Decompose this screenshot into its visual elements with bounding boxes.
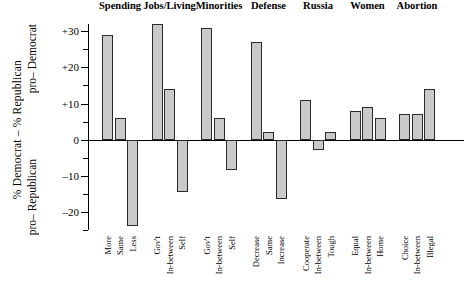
y-tick-label: +30 <box>62 25 79 37</box>
category-label-wrap: Self <box>177 236 187 288</box>
category-label-wrap: Increase <box>276 236 286 288</box>
bar <box>350 111 361 140</box>
bar <box>325 132 336 139</box>
group-header-minorities: Minorities <box>196 0 243 11</box>
category-label-wrap: Illegal <box>425 236 435 288</box>
y-tick-major <box>81 31 88 32</box>
y-tick-label: +10 <box>62 98 79 110</box>
y-axis-pro-republican-label: pro– Republican <box>26 159 48 235</box>
y-tick-major <box>81 67 88 68</box>
y-tick-major <box>81 140 88 141</box>
category-label-wrap: Less <box>128 236 138 288</box>
bar <box>276 140 287 200</box>
category-label: Gov't <box>202 236 212 255</box>
category-label-wrap: In-between <box>313 236 323 288</box>
bar <box>127 140 138 227</box>
category-label-wrap: Decrease <box>251 236 261 288</box>
category-label-wrap: Equal <box>350 236 360 288</box>
category-label-wrap: Self <box>227 236 237 288</box>
bar <box>399 114 410 139</box>
category-label: Home <box>375 236 385 257</box>
category-label: Gov't <box>152 236 162 255</box>
category-label: Same <box>115 236 125 255</box>
category-label: Tough <box>326 236 336 258</box>
category-label-wrap: More <box>103 236 113 288</box>
category-label-wrap: Cooperate <box>301 236 311 288</box>
category-label: Illegal <box>425 236 435 258</box>
group-header-defense: Defense <box>251 0 286 11</box>
bar <box>201 28 212 140</box>
y-tick-major <box>81 104 88 105</box>
bar <box>152 24 163 140</box>
category-label: Equal <box>350 236 360 256</box>
y-tick-major <box>81 212 88 213</box>
category-label-wrap: Choice <box>400 236 410 288</box>
category-label: Self <box>177 236 187 250</box>
bar <box>251 42 262 140</box>
y-tick-minor <box>83 122 88 123</box>
bar <box>375 118 386 140</box>
y-axis-pro-democrat-label: pro– Democrat <box>26 24 48 93</box>
bar <box>263 132 274 139</box>
group-header-russia: Russia <box>303 0 333 11</box>
category-label-wrap: Same <box>264 236 274 288</box>
category-label: Increase <box>276 236 286 264</box>
bar <box>313 140 324 151</box>
chart-figure: % Democrat – % Republican pro– Democrat … <box>0 0 473 290</box>
category-label: Choice <box>400 236 410 260</box>
category-label: In-between <box>313 236 323 274</box>
bar <box>362 107 373 140</box>
bar <box>412 114 423 139</box>
bar <box>164 89 175 140</box>
category-label: In-between <box>165 236 175 274</box>
y-axis-title-main: % Democrat – % Republican <box>6 22 28 237</box>
category-label-wrap: In-between <box>412 236 422 288</box>
bar <box>102 35 113 140</box>
y-axis-title-directions: pro– Democrat pro– Republican <box>26 22 48 237</box>
y-tick-major <box>81 176 88 177</box>
group-header-women: Women <box>350 0 384 11</box>
category-label-wrap: Same <box>115 236 125 288</box>
y-axis-title-text: % Democrat – % Republican <box>11 60 23 199</box>
category-label-wrap: In-between <box>363 236 373 288</box>
y-tick-minor <box>83 49 88 50</box>
y-tick-label: –10 <box>63 170 80 182</box>
category-label: More <box>103 236 113 254</box>
bar <box>177 140 188 192</box>
group-header-jobs-living: Jobs/Living <box>143 0 196 11</box>
y-tick-label: 0 <box>74 134 80 146</box>
bar <box>300 100 311 140</box>
group-header-spending: Spending <box>99 0 141 11</box>
category-label: In-between <box>214 236 224 274</box>
y-tick-minor <box>83 194 88 195</box>
category-label-wrap: Gov't <box>202 236 212 288</box>
group-header-abortion: Abortion <box>397 0 438 11</box>
category-label: In-between <box>412 236 422 274</box>
category-label: Decrease <box>251 236 261 267</box>
category-label: Self <box>227 236 237 250</box>
y-tick-minor <box>83 85 88 86</box>
bar <box>214 118 225 140</box>
category-label: Less <box>128 236 138 252</box>
bar <box>115 118 126 140</box>
bar <box>226 140 237 171</box>
category-label-wrap: In-between <box>214 236 224 288</box>
category-label-wrap: In-between <box>165 236 175 288</box>
y-tick-label: –20 <box>63 206 80 218</box>
category-label: In-between <box>363 236 373 274</box>
bar <box>424 89 435 140</box>
category-label-wrap: Home <box>375 236 385 288</box>
y-axis-line <box>88 24 89 230</box>
category-label: Same <box>264 236 274 255</box>
category-label-wrap: Tough <box>326 236 336 288</box>
category-label: Cooperate <box>301 236 311 271</box>
plot-area: –20–100+10+20+30 <box>88 24 464 230</box>
y-tick-minor <box>83 230 88 231</box>
y-tick-minor <box>83 158 88 159</box>
y-tick-label: +20 <box>62 61 79 73</box>
category-label-wrap: Gov't <box>152 236 162 288</box>
